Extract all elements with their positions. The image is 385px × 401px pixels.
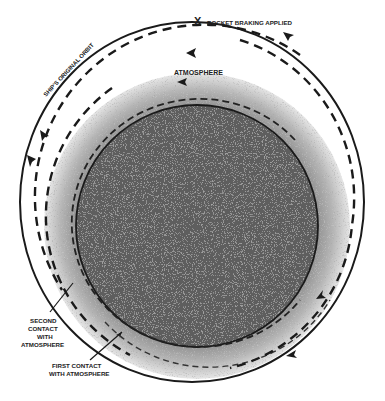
original-orbit-label: SHIP'S ORIGINAL ORBIT bbox=[42, 42, 95, 98]
braking-label: ROCKET BRAKING APPLIED bbox=[207, 19, 293, 26]
second-contact-label: SECOND CONTACT WITH ATMOSPHERE bbox=[21, 317, 64, 348]
svg-text:WITH: WITH bbox=[37, 333, 53, 340]
arrow-icon-top-dashed bbox=[186, 48, 196, 58]
svg-text:ATMOSPHERE: ATMOSPHERE bbox=[21, 341, 64, 348]
svg-text:SECOND: SECOND bbox=[30, 317, 57, 324]
earth-disc bbox=[76, 105, 318, 347]
svg-text:FIRST CONTACT: FIRST CONTACT bbox=[52, 362, 102, 369]
braking-marker-icon: X bbox=[194, 15, 202, 27]
arrow-icon-orbit-top bbox=[283, 32, 294, 41]
svg-text:WITH ATMOSPHERE: WITH ATMOSPHERE bbox=[49, 370, 110, 377]
reentry-diagram: X ROCKET BRAKING APPLIED ATMOSPHERE SHIP… bbox=[0, 0, 385, 401]
svg-text:CONTACT: CONTACT bbox=[28, 325, 58, 332]
first-contact-label: FIRST CONTACT WITH ATMOSPHERE bbox=[49, 362, 110, 377]
atmosphere-label: ATMOSPHERE bbox=[174, 69, 223, 76]
arrow-icon-orbit-left bbox=[27, 155, 36, 167]
